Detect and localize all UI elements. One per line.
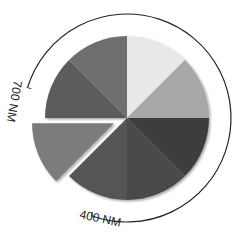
spectrum-wheel: 700 NM 400 NM [0,0,234,243]
label-700nm: 700 NM [4,79,25,123]
wheel-segments [32,36,209,200]
arc-tick-700 [27,87,32,88]
label-400nm: 400 NM [78,207,122,229]
